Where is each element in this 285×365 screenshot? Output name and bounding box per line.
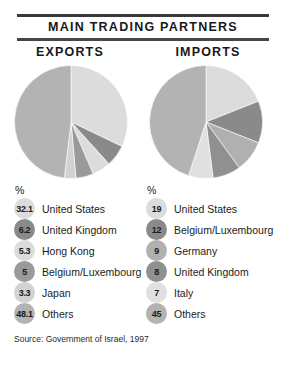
legend-value-badge: 45 (146, 303, 167, 324)
legend-value-badge: 48.1 (14, 303, 35, 324)
pie-slice (14, 66, 71, 179)
legend-row: 7Italy (146, 282, 282, 303)
legend-row: 45Others (146, 303, 282, 324)
legend-row: 19United States (146, 198, 282, 219)
column-header-imports: IMPORTS (146, 45, 270, 59)
legend-row: 6.2United Kingdom (14, 219, 144, 240)
legend-value-badge: 6.2 (14, 219, 35, 240)
legend-row: 3.3Japan (14, 282, 144, 303)
legend-value-badge: 8 (146, 261, 167, 282)
legend-category-label: Belgium/Luxembourg (167, 224, 273, 236)
legend-row: 5Belgium/Luxembourg (14, 261, 144, 282)
legend-category-label: Belgium/Luxembourg (35, 266, 141, 278)
legend-category-label: United States (167, 203, 237, 215)
legend-category-label: Germany (167, 245, 217, 257)
page-title: MAIN TRADING PARTNERS (17, 17, 269, 38)
legend-row: 32.1United States (14, 198, 144, 219)
legend-category-label: Japan (35, 287, 71, 299)
pie-exports-svg (14, 65, 128, 179)
legend-category-label: United Kingdom (35, 224, 117, 236)
legend-value-badge: 19 (146, 198, 167, 219)
legend-percent-symbol-exports: % (14, 183, 144, 198)
legend-row: 12Belgium/Luxembourg (146, 219, 282, 240)
legend-exports: % 32.1United States6.2United Kingdom5.3H… (14, 183, 144, 324)
legend-row: 48.1Others (14, 303, 144, 324)
legend-category-label: Others (35, 308, 74, 320)
legend-category-label: Italy (167, 287, 193, 299)
legend-percent-symbol-imports: % (146, 183, 282, 198)
legend-category-label: United Kingdom (167, 266, 249, 278)
chart-page: MAIN TRADING PARTNERS EXPORTS IMPORTS % … (0, 0, 285, 365)
legend-category-label: Others (167, 308, 206, 320)
legend-row: 8United Kingdom (146, 261, 282, 282)
legend-value-badge: 7 (146, 282, 167, 303)
legend-row: 5.3Hong Kong (14, 240, 144, 261)
pie-chart-exports (14, 65, 128, 179)
legend-value-badge: 3.3 (14, 282, 35, 303)
legend-imports: % 19United States12Belgium/Luxembourg9Ge… (146, 183, 282, 324)
legend-value-badge: 5 (14, 261, 35, 282)
pie-chart-imports (149, 65, 263, 179)
legend-rows-exports: 32.1United States6.2United Kingdom5.3Hon… (14, 198, 144, 324)
legend-value-badge: 32.1 (14, 198, 35, 219)
legend-row: 9Germany (146, 240, 282, 261)
column-header-exports: EXPORTS (8, 45, 132, 59)
source-note: Source: Government of Israel, 1997 (14, 334, 149, 344)
pie-imports-svg (149, 65, 263, 179)
legend-value-badge: 9 (146, 240, 167, 261)
legend-category-label: United States (35, 203, 105, 215)
legend-rows-imports: 19United States12Belgium/Luxembourg9Germ… (146, 198, 282, 324)
legend-value-badge: 12 (146, 219, 167, 240)
legend-value-badge: 5.3 (14, 240, 35, 261)
legend-category-label: Hong Kong (35, 245, 95, 257)
title-rule-bottom (17, 38, 269, 41)
title-block: MAIN TRADING PARTNERS (17, 14, 269, 41)
